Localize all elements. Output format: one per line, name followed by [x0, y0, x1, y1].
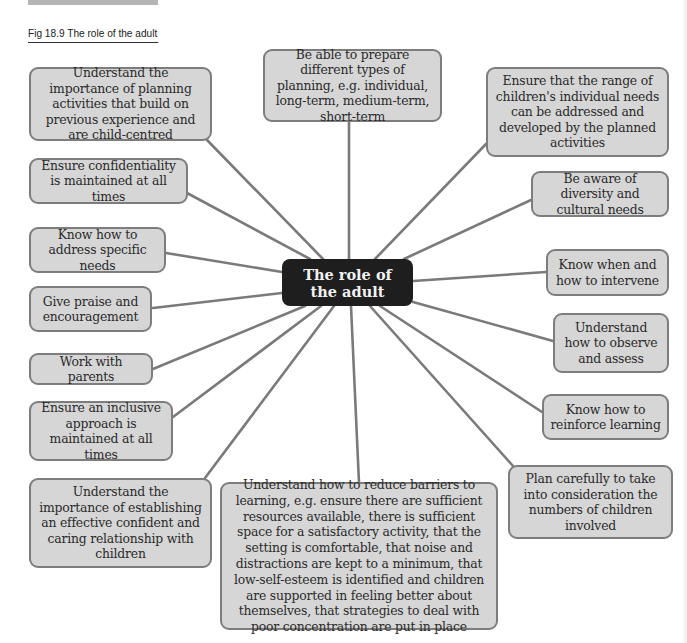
node-text: Ensure an inclusive approach is maintain… — [37, 400, 165, 462]
node-relationship: Understand the importance of establishin… — [29, 478, 212, 568]
node-text: Know when and how to intervene — [554, 257, 661, 288]
link-inclusive-approach — [173, 306, 321, 417]
node-observe-assess: Understand how to observe and assess — [553, 313, 669, 373]
node-text: Understand how to reduce barriers to lea… — [227, 477, 491, 635]
node-inclusive-approach: Ensure an inclusive approach is maintain… — [29, 401, 173, 461]
link-individual-needs — [375, 143, 487, 259]
node-intervene: Know when and how to intervene — [546, 249, 669, 296]
link-relationship — [205, 306, 334, 478]
node-reinforce-learning: Know how to reinforce learning — [542, 394, 669, 440]
link-observe-assess — [413, 302, 553, 341]
node-text: Know how to address specific needs — [37, 227, 158, 274]
node-text: Understand how to observe and assess — [561, 320, 661, 367]
node-confidentiality: Ensure confidentiality is maintained at … — [29, 158, 188, 204]
link-intervene — [413, 272, 546, 281]
link-reinforce-learning — [380, 306, 542, 412]
node-text: Be aware of diversity and cultural needs — [539, 171, 661, 218]
node-text: Know how to reinforce learning — [550, 402, 661, 433]
node-text: Work with parents — [37, 354, 145, 385]
node-parents: Work with parents — [29, 353, 153, 385]
central-node: The role of the adult — [282, 259, 413, 306]
node-text: Be able to prepare different types of pl… — [271, 47, 434, 125]
node-diversity: Be aware of diversity and cultural needs — [531, 171, 669, 217]
link-barriers — [351, 306, 359, 483]
node-text: Understand the importance of planning ac… — [37, 65, 204, 143]
node-types-of-planning: Be able to prepare different types of pl… — [263, 49, 442, 122]
link-parents — [153, 306, 305, 369]
node-text: Ensure that the range of children's indi… — [494, 73, 661, 151]
link-praise — [153, 293, 282, 308]
node-specific-needs: Know how to address specific needs — [29, 227, 166, 273]
link-numbers-of-children — [370, 306, 513, 466]
central-node-label: The role of the adult — [288, 266, 407, 300]
node-planning-activities: Understand the importance of planning ac… — [29, 67, 212, 141]
node-individual-needs: Ensure that the range of children's indi… — [486, 67, 669, 157]
node-barriers: Understand how to reduce barriers to lea… — [220, 482, 498, 630]
node-text: Plan carefully to take into consideratio… — [516, 471, 665, 533]
link-specific-needs — [166, 253, 282, 272]
link-planning-activities — [207, 140, 323, 259]
node-numbers-of-children: Plan carefully to take into consideratio… — [508, 465, 673, 539]
node-text: Understand the importance of establishin… — [37, 484, 204, 562]
node-praise: Give praise and encouragement — [29, 286, 152, 332]
node-text: Ensure confidentiality is maintained at … — [37, 158, 180, 205]
node-text: Give praise and encouragement — [37, 294, 144, 325]
